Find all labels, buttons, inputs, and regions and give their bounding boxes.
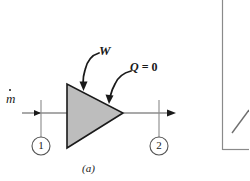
turbine-body	[67, 84, 123, 148]
figure-caption: (a)	[82, 163, 95, 174]
work-label: W	[99, 44, 111, 57]
work-leader-arrow	[80, 53, 100, 91]
figure-turbine-diagram: m W Q = 0 1 2 (a)	[0, 0, 249, 181]
station-label-1: 1	[33, 140, 49, 151]
mass-flow-symbol: m	[6, 91, 15, 106]
inlet-flow-line	[22, 110, 67, 116]
heat-leader-arrow	[106, 71, 132, 104]
outlet-flow-line	[123, 110, 176, 117]
heat-value: = 0	[139, 60, 158, 74]
station-label-2: 2	[151, 140, 167, 151]
mdot-overdot	[9, 89, 11, 91]
diagram-canvas	[0, 0, 249, 181]
mass-flow-label: m	[6, 92, 15, 105]
adjacent-panel-frame	[223, 0, 250, 150]
heat-symbol: Q	[130, 60, 139, 74]
heat-label: Q = 0	[130, 61, 158, 73]
